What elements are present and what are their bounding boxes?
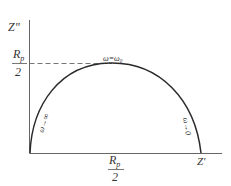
peak-annotation: ω=ω₀	[103, 54, 123, 63]
impedance-semicircle	[30, 63, 201, 153]
nyquist-diagram: Z" Rp 2 Rp 2 Z' ω=ω₀ ω→∞ ω→0	[0, 0, 231, 186]
low-frequency-annotation: ω→0	[181, 117, 193, 136]
svg-text:2: 2	[112, 170, 118, 184]
x-marker-rp-half: Rp 2	[108, 153, 124, 184]
svg-text:Rp: Rp	[12, 47, 24, 63]
high-frequency-annotation: ω→∞	[36, 112, 51, 133]
y-marker-rp-half: Rp 2	[12, 47, 27, 79]
x-axis-label: Z'	[197, 155, 206, 167]
svg-text:2: 2	[15, 65, 21, 79]
y-axis-label: Z"	[8, 20, 21, 34]
svg-text:Rp: Rp	[108, 153, 120, 169]
